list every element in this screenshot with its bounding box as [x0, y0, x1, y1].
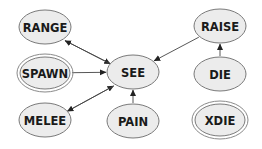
edge-see-to-range	[65, 41, 110, 64]
node-label: RAISE	[201, 20, 239, 34]
node-label: SEE	[121, 66, 145, 80]
node-label: DIE	[209, 68, 231, 82]
node-xdie: XDIE	[192, 101, 248, 139]
node-label: MELEE	[24, 114, 66, 128]
nodes: RANGESPAWNMELEESEEPAINRAISEDIEXDIE	[17, 9, 248, 139]
node-die: DIE	[194, 57, 246, 91]
node-label: RANGE	[23, 21, 68, 35]
node-label: SPAWN	[22, 67, 68, 81]
node-label: PAIN	[118, 115, 148, 129]
node-label: XDIE	[205, 114, 236, 128]
state-diagram: RANGESPAWNMELEESEEPAINRAISEDIEXDIE	[0, 0, 262, 149]
edge-raise-to-see	[154, 37, 199, 61]
node-spawn: SPAWN	[17, 54, 73, 92]
node-see: SEE	[107, 55, 159, 89]
node-raise: RAISE	[194, 9, 246, 43]
node-melee: MELEE	[19, 103, 71, 137]
node-pain: PAIN	[107, 104, 159, 138]
node-range: RANGE	[19, 10, 71, 44]
edge-see-to-melee	[67, 86, 113, 111]
